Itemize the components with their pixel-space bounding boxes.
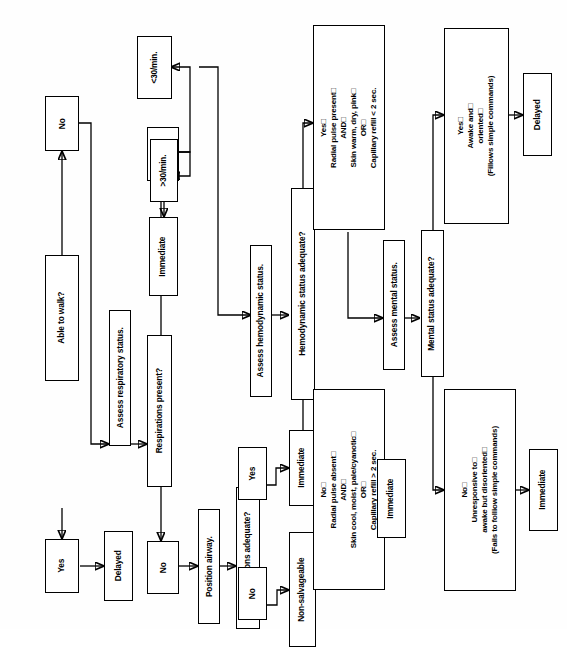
link-hemoyes-to-assess-mental — [348, 232, 382, 318]
node-assess-hemodynamic-label: Assess hemodynamic status. — [256, 264, 265, 377]
node-assess-mental[interactable]: Assess mental status. — [383, 240, 405, 370]
node-position-airway[interactable]: Position airway. — [198, 509, 220, 624]
node-able-to-walk[interactable]: Able to walk? — [45, 255, 79, 381]
node-mental-yes[interactable]: Yes□ Awake and□ oriented□ (Fillows simpl… — [444, 28, 509, 224]
node-walk-yes[interactable]: Yes — [45, 539, 79, 593]
node-hemo-no-label: No□ Radial pulse absent□ AND□ Skin cool,… — [319, 431, 379, 548]
node-delayed-walk[interactable]: Delayed — [104, 531, 133, 601]
node-hemo-no[interactable]: No□ Radial pulse absent□ AND□ Skin cool,… — [313, 389, 385, 590]
node-assess-hemodynamic[interactable]: Assess hemodynamic status. — [250, 245, 272, 397]
node-walk-yes-label: Yes — [57, 559, 66, 573]
node-resp-no[interactable]: No — [147, 541, 179, 594]
node-mental-adequate[interactable]: Mental status adequate? — [421, 230, 444, 377]
node-rate-under-30-label: <30/min. — [150, 52, 159, 84]
node-non-salvageable[interactable]: Non-salvageable — [289, 532, 316, 647]
node-immediate-mental[interactable]: Immediate — [529, 449, 558, 531]
link-airway-yes-to-immediate — [267, 468, 288, 485]
node-airway-yes-label: Yes — [248, 467, 257, 481]
node-respirations-present[interactable]: Respirations present? — [147, 335, 172, 487]
node-resp-no-label: No — [158, 562, 167, 573]
node-delayed-mental-label: Delayed — [533, 99, 542, 130]
node-immediate-hemo[interactable]: Immediate — [377, 459, 406, 538]
link-under30-to-hemo — [199, 67, 250, 315]
node-delayed-mental[interactable]: Delayed — [523, 73, 552, 156]
node-walk-no-label: No — [57, 118, 66, 129]
node-immediate-airway[interactable]: Immediate — [289, 430, 316, 506]
node-rate-over-30-box[interactable]: >30/min. — [150, 139, 178, 202]
node-position-airway-label: Position airway. — [204, 536, 213, 597]
node-hemodynamic-adequate-label: Hemodynamic status adequate? — [298, 232, 307, 356]
node-hemo-yes-label: Yes□ Radial pulse present□ AND□ Skin war… — [319, 87, 379, 168]
node-immediate-airway-label: Immediate — [298, 448, 307, 488]
link-mentaladq-to-no — [433, 366, 443, 490]
link-airway-no-to-nonsalv — [267, 590, 288, 605]
node-immediate-hemo-label: Immediate — [387, 478, 396, 518]
node-immediate-mental-label: Immediate — [539, 470, 548, 510]
node-mental-adequate-label: Mental status adequate? — [428, 256, 437, 350]
node-walk-no[interactable]: No — [45, 96, 79, 151]
node-airway-yes[interactable]: Yes — [238, 447, 267, 500]
node-immediate-rate-label: Immediate — [159, 236, 168, 276]
node-assess-respiratory-label: Assess respiratory status. — [115, 328, 124, 429]
node-immediate-rate[interactable]: Immediate — [149, 217, 178, 296]
node-mental-no[interactable]: No□ Unresponsive to□ awake but disorient… — [444, 389, 516, 591]
node-airway-no[interactable]: No — [238, 567, 267, 620]
node-assess-respiratory[interactable]: Assess respiratory status. — [109, 310, 131, 446]
node-able-to-walk-label: Able to walk? — [57, 292, 66, 344]
node-hemodynamic-adequate[interactable]: Hemodynamic status adequate? — [291, 188, 315, 400]
node-respirations-present-label: Respirations present? — [155, 368, 164, 453]
node-delayed-walk-label: Delayed — [114, 550, 123, 581]
node-airway-no-label: No — [248, 588, 257, 599]
node-mental-yes-label: Yes□ Awake and□ oriented□ (Fillows simpl… — [457, 76, 497, 177]
node-mental-no-label: No□ Unresponsive to□ awake but disorient… — [460, 426, 500, 554]
node-assess-mental-label: Assess mental status. — [389, 263, 398, 348]
node-rate-under-30-box[interactable]: <30/min. — [137, 36, 172, 99]
node-rate-over-30-label: >30/min. — [159, 155, 168, 187]
link-no-to-assess-resp — [79, 123, 108, 444]
node-hemo-yes[interactable]: Yes□ Radial pulse present□ AND□ Skin war… — [313, 25, 385, 230]
node-non-salvageable-label: Non-salvageable — [298, 557, 307, 621]
